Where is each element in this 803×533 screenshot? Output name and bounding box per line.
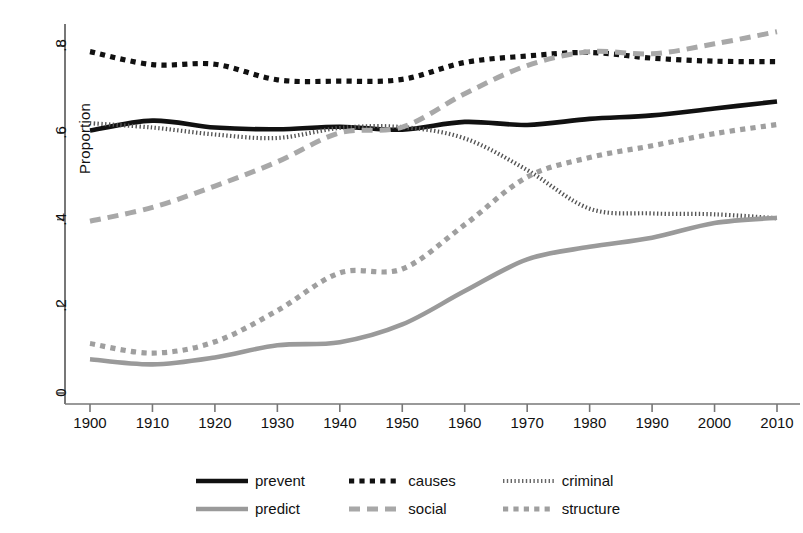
legend-key-icon-structure [503, 505, 555, 512]
legend-label: predict [255, 501, 300, 516]
legend-key-icon-causes [349, 477, 401, 484]
chart-figure: Proportion 0.2.4.6.8 1900191019201930194… [0, 0, 803, 533]
legend-key-icon-predict [196, 505, 248, 512]
legend-entry-predict[interactable]: predict [196, 501, 349, 516]
y-tick-label: .8 [52, 34, 69, 58]
y-tick-label: .6 [52, 120, 69, 144]
series-line-causes [90, 52, 777, 82]
legend-key-icon-prevent [196, 477, 248, 484]
y-tick-label: .4 [52, 207, 69, 231]
x-tick-label: 1990 [626, 414, 678, 431]
x-tick-label: 2010 [751, 414, 803, 431]
legend-label: criminal [562, 473, 614, 488]
legend-label: social [408, 501, 446, 516]
x-tick-label: 1980 [564, 414, 616, 431]
x-tick-label: 1940 [314, 414, 366, 431]
y-tick-label: 0 [52, 381, 69, 405]
legend-entry-social[interactable]: social [349, 501, 502, 516]
x-tick-label: 1960 [439, 414, 491, 431]
x-tick-label: 2000 [689, 414, 741, 431]
series-line-prevent [90, 102, 777, 131]
chart-legend: preventcausescriminalpredictsocialstruct… [196, 466, 656, 522]
x-tick-label: 1930 [251, 414, 303, 431]
series-line-criminal [90, 123, 777, 218]
series-line-structure [90, 125, 777, 354]
legend-entry-criminal[interactable]: criminal [503, 473, 656, 488]
x-tick-label: 1970 [501, 414, 553, 431]
y-axis-title: Proportion [76, 59, 93, 219]
x-tick-label: 1900 [64, 414, 116, 431]
legend-label: prevent [255, 473, 305, 488]
legend-key-icon-criminal [503, 477, 555, 484]
plot-area [0, 0, 803, 533]
legend-key-icon-social [349, 505, 401, 512]
x-tick-label: 1950 [376, 414, 428, 431]
legend-entry-structure[interactable]: structure [503, 501, 656, 516]
legend-entry-prevent[interactable]: prevent [196, 473, 349, 488]
y-tick-label: .2 [52, 294, 69, 318]
x-tick-label: 1910 [126, 414, 178, 431]
x-tick-label: 1920 [189, 414, 241, 431]
legend-label: structure [562, 501, 620, 516]
legend-label: causes [408, 473, 456, 488]
legend-entry-causes[interactable]: causes [349, 473, 502, 488]
series-line-predict [90, 218, 777, 365]
